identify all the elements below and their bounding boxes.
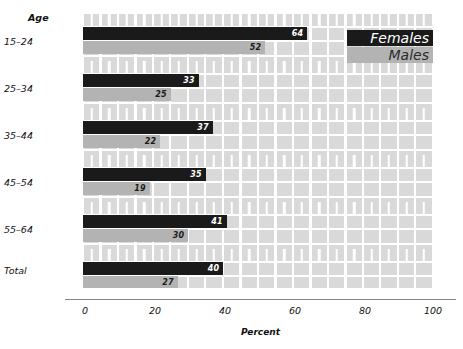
- x-tick-label-20: 20: [149, 305, 161, 316]
- category-label-total: Total: [4, 265, 76, 276]
- legend-item-females: Females: [347, 30, 433, 46]
- bar-value-females-55-64: 41: [211, 215, 222, 228]
- bar-value-females-45-54: 35: [190, 168, 201, 181]
- bar-females-55-64: 41: [83, 215, 227, 228]
- x-tick-label-40: 40: [219, 305, 231, 316]
- category-label-55-64: 55–64: [4, 224, 76, 235]
- x-tick-label-100: 100: [424, 305, 442, 316]
- horizontal-gridline: [83, 196, 433, 198]
- bar-males-total: 27: [83, 276, 178, 288]
- grid-brick-band: [83, 249, 433, 261]
- x-tick-label-80: 80: [359, 305, 371, 316]
- grid-brick-band: [83, 202, 433, 214]
- x-axis-title: Percent: [241, 327, 280, 337]
- bar-females-35-44: 37: [83, 121, 213, 134]
- bar-value-females-35-44: 37: [197, 121, 208, 134]
- x-tick-label-60: 60: [289, 305, 301, 316]
- bar-males-45-54: 19: [83, 182, 150, 195]
- category-label-35-44: 35–44: [4, 130, 76, 141]
- grid-brick-band: [83, 108, 433, 120]
- horizontal-gridline: [83, 243, 433, 245]
- bar-value-females-15-24: 64: [292, 27, 303, 40]
- x-axis-title-wrapper: Percent: [0, 327, 463, 337]
- legend-label-females: Females: [370, 30, 429, 46]
- bar-value-males-15-24: 52: [250, 41, 261, 54]
- category-label-15-24: 15–24: [4, 36, 76, 47]
- bar-value-females-25-34: 33: [183, 74, 194, 87]
- legend-label-males: Males: [389, 47, 429, 63]
- bar-males-35-44: 22: [83, 135, 160, 148]
- bar-males-55-64: 30: [83, 229, 188, 242]
- horizontal-gridline: [83, 149, 433, 151]
- category-label-45-54: 45–54: [4, 177, 76, 188]
- bar-females-25-34: 33: [83, 74, 199, 87]
- bar-females-15-24: 64: [83, 27, 307, 40]
- category-label-25-34: 25–34: [4, 83, 76, 94]
- legend: Females Males: [347, 30, 433, 64]
- bar-value-females-total: 40: [208, 262, 219, 275]
- bar-value-males-55-64: 30: [173, 229, 184, 242]
- bar-females-total: 40: [83, 262, 223, 275]
- horizontal-gridline: [83, 102, 433, 104]
- legend-item-males: Males: [347, 47, 433, 63]
- grid-brick-band: [83, 155, 433, 167]
- category-axis-labels: 15–24 25–34 35–44 45–54 55–64 Total: [0, 14, 76, 288]
- x-tick-label-0: 0: [82, 305, 88, 316]
- grid-brick-band: [83, 14, 433, 26]
- bar-value-males-total: 27: [162, 276, 173, 288]
- bar-value-males-25-34: 25: [155, 88, 166, 101]
- bar-value-males-45-54: 19: [134, 182, 145, 195]
- bar-males-25-34: 25: [83, 88, 171, 101]
- x-axis-line: [65, 299, 456, 300]
- bar-males-15-24: 52: [83, 41, 265, 54]
- bar-females-45-54: 35: [83, 168, 206, 181]
- bar-chart-figure: Age 15–24 25–34 35–44 45–54 55–64 Total: [0, 0, 463, 349]
- bar-value-males-35-44: 22: [145, 135, 156, 148]
